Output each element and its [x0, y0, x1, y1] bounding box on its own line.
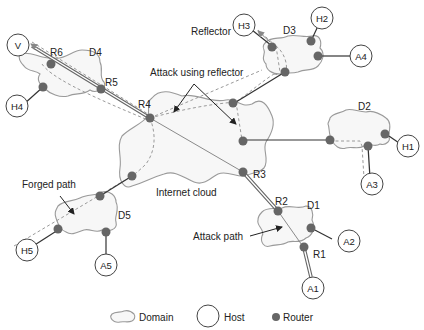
svg-text:A3: A3 — [366, 179, 378, 190]
host-h1: H1 — [397, 135, 419, 157]
domain-d1 — [258, 206, 314, 246]
host-h3: H3 — [233, 14, 255, 36]
router-cloud-d2 — [239, 137, 248, 146]
router-d3-h3 — [268, 43, 277, 52]
legend: Domain Host Router — [111, 305, 314, 327]
router-d3-lower — [281, 68, 290, 77]
domain-d2 — [328, 109, 390, 148]
host-a1: A1 — [302, 277, 324, 299]
host-a2: A2 — [338, 230, 360, 252]
svg-text:H3: H3 — [238, 20, 250, 31]
label-d4: D4 — [89, 47, 102, 58]
svg-text:V: V — [15, 40, 22, 51]
router-d5-h5 — [54, 225, 63, 234]
link-d3-h3 — [252, 30, 272, 46]
host-a3: A3 — [361, 173, 383, 195]
label-r4: R4 — [138, 99, 151, 110]
legend-domain-label: Domain — [139, 312, 173, 323]
label-r1: R1 — [313, 249, 326, 260]
label-internet-cloud: Internet cloud — [156, 187, 217, 198]
router-d3-h2 — [307, 37, 316, 46]
router-d2-left — [326, 136, 335, 145]
label-r2: R2 — [275, 196, 288, 207]
host-h5: H5 — [16, 239, 38, 261]
legend-router-icon — [272, 313, 280, 321]
host-v: V — [7, 34, 29, 56]
label-r6: R6 — [50, 47, 63, 58]
svg-text:A1: A1 — [307, 283, 319, 294]
label-attack-path: Attack path — [193, 231, 243, 242]
router-d4-h4 — [39, 83, 48, 92]
svg-text:H1: H1 — [402, 141, 414, 152]
router-d2-a3 — [364, 142, 373, 151]
router-d2-h1 — [381, 130, 390, 139]
host-a4: A4 — [350, 45, 372, 67]
svg-text:A5: A5 — [100, 260, 112, 271]
label-reflector: Reflector — [191, 26, 232, 37]
svg-text:A2: A2 — [343, 236, 355, 247]
label-d2: D2 — [358, 101, 371, 112]
host-h2: H2 — [311, 7, 333, 29]
router-d5-upper — [96, 192, 105, 201]
network-diagram: V H4 H3 H2 A4 H1 A3 H5 A5 A2 A1 R6 R5 R4… — [0, 0, 424, 330]
label-d3: D3 — [283, 25, 296, 36]
svg-text:H5: H5 — [21, 245, 33, 256]
svg-text:A4: A4 — [355, 51, 367, 62]
label-r5: R5 — [105, 77, 118, 88]
label-attack-using-reflector: Attack using reflector — [150, 67, 244, 78]
router-cloud-d3 — [229, 99, 238, 108]
legend-host-label: Host — [224, 312, 245, 323]
svg-text:H2: H2 — [316, 13, 328, 24]
label-d5: D5 — [118, 210, 131, 221]
label-r3: R3 — [253, 169, 266, 180]
legend-router-label: Router — [283, 312, 314, 323]
legend-host-icon — [197, 305, 219, 327]
router-d1-a2 — [307, 224, 316, 233]
label-d1: D1 — [307, 200, 320, 211]
svg-text:H4: H4 — [11, 101, 23, 112]
legend-domain-icon — [111, 311, 135, 323]
router-d3-a4 — [314, 52, 323, 61]
router-r3 — [239, 168, 248, 177]
router-r4 — [146, 114, 155, 123]
router-r6 — [47, 60, 56, 69]
domain-d5 — [55, 192, 117, 234]
label-forged-path: Forged path — [22, 179, 76, 190]
host-h4: H4 — [6, 95, 28, 117]
router-r2 — [274, 207, 283, 216]
host-a5: A5 — [95, 254, 117, 276]
router-r1 — [300, 243, 309, 252]
router-d5-a5 — [102, 228, 111, 237]
router-cloud-d5 — [128, 172, 137, 181]
